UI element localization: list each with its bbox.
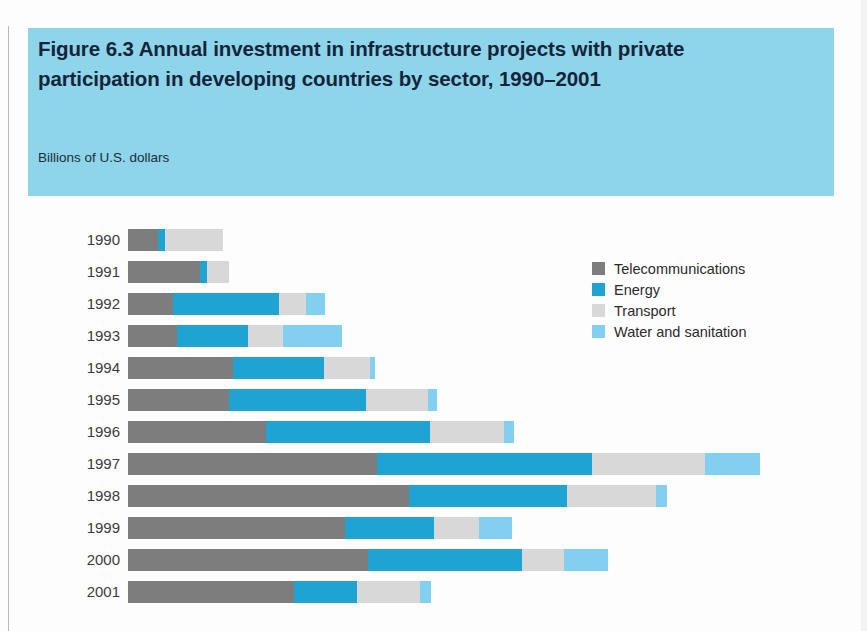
stacked-bar-1999 — [128, 517, 512, 539]
figure-page: Figure 6.3 Annual investment in infrastr… — [0, 0, 867, 631]
year-label-1997: 1997 — [28, 448, 120, 480]
year-label-1994: 1994 — [28, 352, 120, 384]
chart-row: 1990 — [28, 224, 834, 256]
bar-segment-energy — [158, 229, 165, 251]
chart-row: 1999 — [28, 512, 834, 544]
page-right-edge — [861, 0, 867, 631]
legend-label-transport: Transport — [614, 303, 676, 319]
bar-segment-transport — [434, 517, 480, 539]
bar-segment-telecom — [128, 325, 177, 347]
bar-segment-energy — [409, 485, 566, 507]
legend-swatch-telecom-icon — [592, 262, 605, 275]
year-label-2001: 2001 — [28, 576, 120, 608]
year-label-1998: 1998 — [28, 480, 120, 512]
bar-segment-transport — [567, 485, 657, 507]
bar-segment-energy — [200, 261, 207, 283]
year-label-1992: 1992 — [28, 288, 120, 320]
legend-item-water: Water and sanitation — [592, 321, 746, 342]
bar-segment-energy — [377, 453, 593, 475]
figure-subtitle: Billions of U.S. dollars — [38, 150, 169, 165]
bar-segment-water — [370, 357, 375, 379]
bar-segment-water — [656, 485, 666, 507]
bar-segment-transport — [592, 453, 705, 475]
legend-swatch-energy-icon — [592, 283, 605, 296]
legend-swatch-water-icon — [592, 325, 605, 338]
bar-segment-energy — [229, 389, 366, 411]
chart-row: 2001 — [28, 576, 834, 608]
chart-row: 1997 — [28, 448, 834, 480]
bar-segment-energy — [368, 549, 522, 571]
year-label-2000: 2000 — [28, 544, 120, 576]
legend-label-telecom: Telecommunications — [614, 261, 745, 277]
year-label-1991: 1991 — [28, 256, 120, 288]
stacked-bar-1995 — [128, 389, 437, 411]
year-label-1990: 1990 — [28, 224, 120, 256]
bar-segment-water — [283, 325, 342, 347]
year-label-1995: 1995 — [28, 384, 120, 416]
bar-segment-energy — [173, 293, 279, 315]
year-label-1999: 1999 — [28, 512, 120, 544]
bar-segment-telecom — [128, 453, 377, 475]
bar-segment-telecom — [128, 261, 200, 283]
stacked-bar-2001 — [128, 581, 431, 603]
chart-row: 1994 — [28, 352, 834, 384]
bar-segment-transport — [324, 357, 371, 379]
legend-item-energy: Energy — [592, 279, 746, 300]
stacked-bar-2000 — [128, 549, 608, 571]
bar-segment-transport — [248, 325, 284, 347]
bar-segment-water — [504, 421, 514, 443]
bar-segment-telecom — [128, 421, 266, 443]
stacked-bar-1997 — [128, 453, 760, 475]
bar-segment-energy — [345, 517, 434, 539]
bar-segment-transport — [207, 261, 229, 283]
page-left-rule — [8, 26, 9, 631]
year-label-1993: 1993 — [28, 320, 120, 352]
legend-swatch-transport-icon — [592, 304, 605, 317]
bar-segment-telecom — [128, 389, 229, 411]
bar-segment-telecom — [128, 485, 409, 507]
bar-segment-telecom — [128, 229, 158, 251]
bar-segment-transport — [279, 293, 306, 315]
figure-title: Figure 6.3 Annual investment in infrastr… — [38, 34, 778, 94]
legend-label-water: Water and sanitation — [614, 324, 746, 340]
stacked-bar-1996 — [128, 421, 514, 443]
stacked-bar-1998 — [128, 485, 667, 507]
chart-row: 1998 — [28, 480, 834, 512]
bar-segment-transport — [366, 389, 429, 411]
chart-row: 2000 — [28, 544, 834, 576]
chart-legend: TelecommunicationsEnergyTransportWater a… — [592, 258, 746, 342]
bar-segment-transport — [430, 421, 504, 443]
bar-segment-energy — [266, 421, 430, 443]
stacked-bar-1994 — [128, 357, 375, 379]
bar-segment-telecom — [128, 293, 173, 315]
bar-segment-water — [420, 581, 431, 603]
bar-segment-transport — [522, 549, 564, 571]
bar-segment-water — [564, 549, 608, 571]
bar-segment-telecom — [128, 517, 345, 539]
bar-segment-energy — [294, 581, 357, 603]
bar-segment-water — [479, 517, 512, 539]
bar-segment-telecom — [128, 549, 368, 571]
stacked-bar-1992 — [128, 293, 325, 315]
bar-segment-telecom — [128, 357, 233, 379]
chart-row: 1996 — [28, 416, 834, 448]
legend-item-telecom: Telecommunications — [592, 258, 746, 279]
bar-segment-transport — [357, 581, 420, 603]
stacked-bar-1990 — [128, 229, 223, 251]
bar-segment-telecom — [128, 581, 294, 603]
stacked-bar-1993 — [128, 325, 342, 347]
legend-label-energy: Energy — [614, 282, 660, 298]
legend-item-transport: Transport — [592, 300, 746, 321]
bar-segment-energy — [177, 325, 248, 347]
bar-segment-water — [705, 453, 759, 475]
bar-segment-energy — [233, 357, 324, 379]
stacked-bar-1991 — [128, 261, 229, 283]
bar-segment-water — [428, 389, 437, 411]
bar-segment-water — [306, 293, 326, 315]
bar-segment-transport — [165, 229, 223, 251]
chart-row: 1995 — [28, 384, 834, 416]
year-label-1996: 1996 — [28, 416, 120, 448]
